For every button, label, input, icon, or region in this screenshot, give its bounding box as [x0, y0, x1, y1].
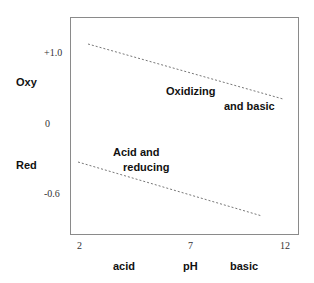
lower-boundary-line — [78, 162, 262, 216]
x-tick-mid: 7 — [188, 240, 193, 251]
y-tick-bot: -0.6 — [44, 188, 60, 199]
x-label-basic: basic — [230, 260, 258, 272]
x-tick-left: 2 — [77, 240, 82, 251]
boundary-lines — [0, 0, 314, 283]
annotation-and-basic: and basic — [224, 100, 275, 112]
x-tick-right: 12 — [280, 240, 290, 251]
annotation-oxidizing: Oxidizing — [166, 85, 216, 97]
x-label-ph: pH — [183, 260, 198, 272]
y-label-oxy: Oxy — [16, 76, 37, 88]
y-tick-mid: 0 — [45, 118, 50, 129]
annotation-acid-and: Acid and — [113, 146, 159, 158]
y-label-red: Red — [16, 159, 37, 171]
y-tick-top: +1.0 — [44, 47, 62, 58]
annotation-reducing: reducing — [123, 161, 169, 173]
x-label-acid: acid — [113, 260, 135, 272]
